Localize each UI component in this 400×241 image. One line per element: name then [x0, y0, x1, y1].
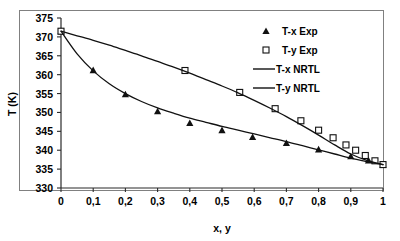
data-point-square [343, 142, 349, 148]
y-tick-label: 360 [35, 69, 53, 81]
y-tick-label: 340 [35, 144, 53, 156]
y-tick-label: 345 [35, 125, 53, 137]
x-tick-label: 0,3 [150, 195, 165, 207]
y-tick-label: 350 [35, 106, 53, 118]
data-point-square [353, 147, 359, 153]
x-tick-label: 0 [58, 195, 64, 207]
x-tick-label: 0,5 [215, 195, 230, 207]
x-tick-label: 0,4 [182, 195, 197, 207]
x-tick-label: 0,1 [86, 195, 101, 207]
x-tick-label: 0,8 [311, 195, 326, 207]
y-tick-label: 370 [35, 31, 53, 43]
data-point-square [316, 127, 322, 133]
y-axis-title: T (K) [6, 92, 18, 116]
x-tick-label: 0,6 [247, 195, 262, 207]
x-tick-label: 1 [380, 195, 386, 207]
legend-label: T-x Exp [282, 26, 318, 37]
legend-label: T-y Exp [282, 45, 318, 56]
tx-ty-diagram: 330335340345350355360365370375 T (K) 00,… [0, 0, 400, 241]
y-tick-label: 355 [35, 88, 53, 100]
x-tick-label: 0,9 [343, 195, 358, 207]
legend-label: T-x NRTL [276, 64, 320, 75]
y-tick-label: 365 [35, 50, 53, 62]
x-tick-label: 0,2 [118, 195, 133, 207]
x-tick-label: 0,7 [279, 195, 294, 207]
y-tick-label: 330 [35, 182, 53, 194]
y-tick-label: 375 [35, 12, 53, 24]
data-point-square [330, 135, 336, 141]
chart-figure: 330335340345350355360365370375 T (K) 00,… [0, 0, 400, 241]
y-tick-label: 335 [35, 163, 53, 175]
x-axis-title: x, y [213, 222, 231, 234]
legend-square-icon [263, 47, 269, 53]
data-point-square [362, 153, 368, 159]
legend-label: T-y NRTL [276, 83, 320, 94]
